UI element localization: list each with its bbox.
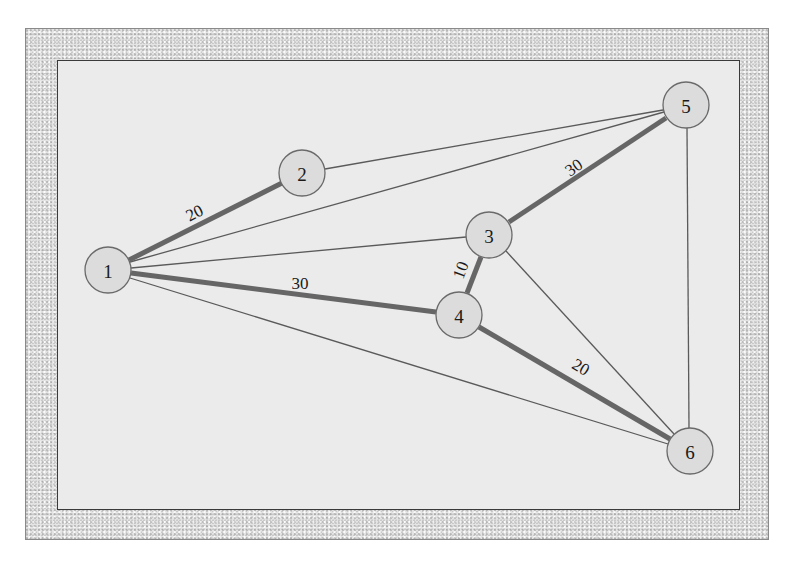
edge-3-6 — [506, 251, 674, 434]
node-label-5: 5 — [681, 96, 691, 117]
node-1: 1 — [85, 247, 131, 293]
node-label-1: 1 — [103, 261, 113, 282]
edge-4-6 — [479, 327, 670, 439]
weight-label-3-5: 30 — [561, 155, 586, 180]
node-label-3: 3 — [484, 226, 494, 247]
node-label-4: 4 — [454, 306, 464, 327]
edge-1-5 — [130, 112, 664, 262]
highlighted-edges — [129, 118, 670, 439]
node-3: 3 — [466, 212, 512, 258]
edge-1-2 — [129, 183, 282, 260]
weight-label-3-4: 10 — [449, 259, 473, 281]
graph-canvas: 20 30 10 30 20 1 2 3 4 5 6 — [0, 0, 788, 566]
edge-weight-labels: 20 30 10 30 20 — [183, 155, 593, 380]
weight-label-4-6: 20 — [569, 355, 593, 380]
node-label-2: 2 — [297, 164, 307, 185]
node-label-6: 6 — [685, 442, 695, 463]
node-6: 6 — [667, 428, 713, 474]
weight-label-1-4: 30 — [292, 274, 309, 293]
node-5: 5 — [663, 82, 709, 128]
edge-1-3 — [131, 237, 466, 268]
node-2: 2 — [279, 150, 325, 196]
edge-5-6 — [687, 128, 689, 428]
node-4: 4 — [436, 292, 482, 338]
